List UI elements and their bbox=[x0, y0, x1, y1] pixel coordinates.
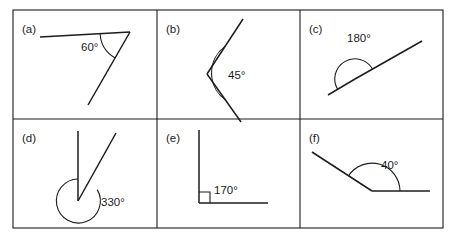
panel-c-ray-1 bbox=[328, 79, 355, 95]
panel-d-figure bbox=[56, 131, 116, 223]
panel-c-ray-2 bbox=[355, 41, 422, 79]
panel-c-figure bbox=[328, 41, 422, 95]
panel-a-angle-value: 60° bbox=[81, 41, 98, 53]
panel-a[interactable]: (a) 60° bbox=[22, 23, 130, 105]
panel-c-label: (c) bbox=[309, 23, 323, 35]
panel-e-right-angle-square bbox=[199, 192, 210, 203]
panel-c-angle-value: 180° bbox=[347, 32, 371, 44]
angle-worksheet: (a) 60° (b) 45° (c) bbox=[0, 0, 454, 242]
panel-c-angle-arc bbox=[335, 59, 373, 90]
panel-d-label: (d) bbox=[22, 132, 36, 144]
panel-d-angle-value: 330° bbox=[101, 196, 125, 208]
panel-a-label: (a) bbox=[22, 23, 36, 35]
panel-f-ray-1 bbox=[312, 152, 372, 191]
panel-f-label: (f) bbox=[309, 132, 320, 144]
panel-b[interactable]: (b) 45° bbox=[166, 19, 245, 122]
panel-d[interactable]: (d) 330° bbox=[22, 131, 125, 223]
panel-e-angle-value: 170° bbox=[214, 184, 238, 196]
panel-b-angle-value: 45° bbox=[228, 69, 245, 81]
panel-e-label: (e) bbox=[166, 132, 180, 144]
panel-b-label: (b) bbox=[166, 23, 180, 35]
panel-f[interactable]: (f) 40° bbox=[309, 132, 430, 191]
panel-f-figure bbox=[312, 152, 430, 191]
panel-d-ray-2 bbox=[78, 133, 116, 201]
panel-a-ray-1 bbox=[40, 32, 130, 37]
panel-a-angle-arc bbox=[100, 34, 115, 58]
panel-e[interactable]: (e) 170° bbox=[166, 130, 268, 203]
panel-f-angle-value: 40° bbox=[381, 159, 398, 171]
panel-c[interactable]: (c) 180° bbox=[309, 23, 422, 95]
